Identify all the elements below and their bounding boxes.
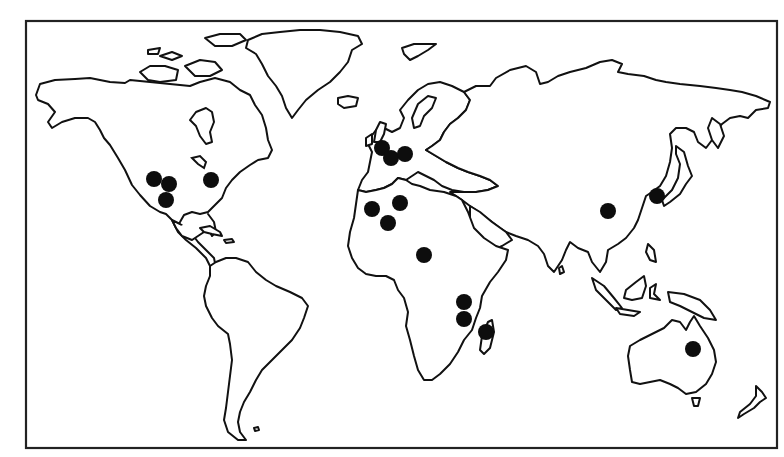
marker-dot[interactable] <box>146 171 162 187</box>
landmass-tasmania <box>692 398 700 406</box>
arctic-island-3 <box>205 34 246 46</box>
landmass-falklands <box>254 427 259 431</box>
landmass-north-america <box>36 78 272 228</box>
marker-dot[interactable] <box>364 201 380 217</box>
marker-dot[interactable] <box>649 188 665 204</box>
arctic-island-2 <box>185 60 222 76</box>
world-map <box>0 0 784 457</box>
marker-dot[interactable] <box>203 172 219 188</box>
marker-dot[interactable] <box>456 294 472 310</box>
caribbean-island-2 <box>224 239 234 243</box>
landmass-java <box>616 308 640 316</box>
marker-dot[interactable] <box>383 150 399 166</box>
marker-dot[interactable] <box>456 311 472 327</box>
marker-dot[interactable] <box>158 192 174 208</box>
marker-dot[interactable] <box>416 247 432 263</box>
landmass-philippines <box>646 244 656 262</box>
landmass-sumatra <box>592 278 622 310</box>
marker-dot[interactable] <box>392 195 408 211</box>
landmass-sri-lanka <box>559 266 564 274</box>
landmass-iceland <box>338 96 358 108</box>
marker-dot[interactable] <box>397 146 413 162</box>
marker-dot[interactable] <box>380 215 396 231</box>
marker-dot[interactable] <box>161 176 177 192</box>
landmass-australia <box>628 316 716 394</box>
landmass-borneo <box>624 276 646 300</box>
landmass-new-guinea <box>668 292 716 320</box>
arctic-islands <box>140 66 178 82</box>
arctic-island-5 <box>148 48 160 54</box>
marker-dot[interactable] <box>685 341 701 357</box>
continents <box>36 30 770 440</box>
marker-dot[interactable] <box>478 324 494 340</box>
caribbean-islands <box>200 226 222 236</box>
landmass-new-zealand <box>738 386 766 418</box>
landmass-sulawesi <box>650 284 660 300</box>
landmass-svalbard <box>402 44 436 60</box>
marker-dot[interactable] <box>600 203 616 219</box>
landmass-south-america <box>204 258 308 440</box>
landmass-ireland <box>366 134 372 146</box>
arctic-island-4 <box>160 52 182 60</box>
